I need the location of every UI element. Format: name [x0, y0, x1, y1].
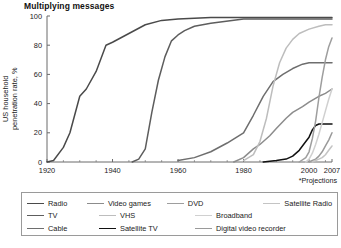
x-tick-label: 2007 — [324, 166, 340, 175]
legend-swatch-icon — [27, 203, 44, 204]
legend-item-radio: Radio — [27, 200, 87, 207]
y-tick-label: 20 — [34, 128, 42, 137]
legend-swatch-icon — [87, 203, 104, 204]
projection-asterisk: * — [331, 10, 334, 12]
axis-lines — [47, 16, 332, 162]
legend-swatch-icon — [263, 203, 280, 204]
chart-figure: Multiplying messages US household penetr… — [0, 0, 341, 248]
legend-swatch-icon — [99, 228, 116, 229]
legend-row: CableSatellite TVDigital video recorder — [27, 222, 332, 235]
legend-item-broadband: Broadband — [195, 212, 311, 219]
chart-annotations: * — [331, 10, 334, 12]
series-line-vhs — [244, 25, 332, 161]
projections-note: *Projections — [299, 176, 337, 185]
legend-item-video-games: Video games — [87, 200, 167, 207]
y-tick-label: 80 — [34, 41, 42, 50]
x-tick-label: 2000 — [301, 166, 317, 175]
legend-label: Satellite TV — [120, 225, 158, 232]
legend-swatch-icon — [99, 215, 116, 216]
legend-swatch-icon — [195, 215, 212, 216]
series-line-radio — [47, 17, 332, 162]
legend-row: TVVHSBroadband — [27, 210, 332, 223]
x-tick-label: 1940 — [104, 166, 120, 175]
legend-item-dvd: DVD — [167, 200, 264, 207]
chart-legend: RadioVideo gamesDVDSatellite RadioTVVHSB… — [21, 192, 338, 236]
y-tick-label: 40 — [34, 99, 42, 108]
legend-label: DVD — [188, 200, 204, 207]
legend-label: TV — [48, 212, 57, 219]
legend-swatch-icon — [27, 228, 44, 229]
legend-swatch-icon — [195, 228, 212, 229]
series-line-cable — [178, 63, 332, 161]
y-tick-label: 100 — [30, 12, 42, 21]
x-tick-label: 1980 — [235, 166, 251, 175]
legend-row: RadioVideo gamesDVDSatellite Radio — [27, 197, 332, 210]
plot-area: 020406080100 192019401960198020002007 * — [0, 10, 341, 185]
legend-label: Radio — [48, 200, 67, 207]
legend-item-digital-video-recorder: Digital video recorder — [195, 225, 311, 232]
legend-item-vhs: VHS — [99, 212, 195, 219]
y-tick-label: 60 — [34, 70, 42, 79]
legend-item-satellite-radio: Satellite Radio — [263, 200, 332, 207]
legend-label: Satellite Radio — [284, 200, 332, 207]
legend-swatch-icon — [167, 203, 184, 204]
data-series-group — [47, 17, 332, 162]
legend-label: Video games — [108, 200, 151, 207]
legend-swatch-icon — [27, 215, 44, 216]
series-line-satellite-tv — [263, 124, 332, 162]
legend-label: Digital video recorder — [216, 225, 286, 232]
x-tick-labels: 192019401960198020002007 — [39, 159, 340, 175]
legend-label: VHS — [120, 212, 135, 219]
x-tick-label: 1920 — [39, 166, 55, 175]
legend-label: Broadband — [216, 212, 252, 219]
legend-item-tv: TV — [27, 212, 99, 219]
x-tick-label: 1960 — [170, 166, 186, 175]
legend-label: Cable — [48, 225, 67, 232]
legend-item-satellite-tv: Satellite TV — [99, 225, 195, 232]
legend-item-cable: Cable — [27, 225, 99, 232]
